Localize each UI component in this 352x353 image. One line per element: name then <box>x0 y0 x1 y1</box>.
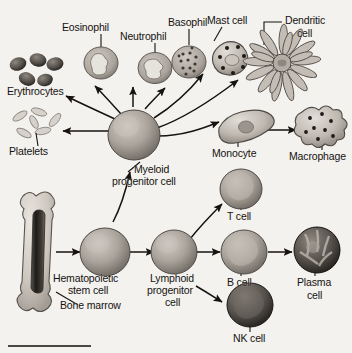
t-cell-illustration <box>220 169 262 209</box>
eosinophil-illustration <box>84 47 118 79</box>
monocyte-illustration <box>219 110 274 143</box>
lymphoid-progenitor-cell-illustration <box>151 230 197 274</box>
label-nk-cell: NK cell <box>233 333 265 345</box>
label-t-cell: T cell <box>227 211 251 223</box>
label-myeloid-line2: progenitor cell <box>112 176 176 188</box>
label-macrophage: Macrophage <box>289 151 346 163</box>
label-neutrophil: Neutrophil <box>120 31 166 43</box>
label-myeloid-line1: Myeloid <box>134 164 169 176</box>
platelets-illustration <box>11 106 62 139</box>
label-erythrocytes: Erythrocytes <box>7 86 64 98</box>
basophil-illustration <box>172 46 206 78</box>
label-mast-cell: Mast cell <box>207 15 247 27</box>
mast-cell-illustration <box>212 42 247 75</box>
label-bone-marrow: Bone marrow <box>60 300 121 312</box>
label-lymphoid-line1: Lymphoid <box>150 273 194 285</box>
plasma-cell-illustration <box>294 227 340 273</box>
label-lymphoid-line3: cell <box>165 297 180 309</box>
label-platelets: Platelets <box>9 146 48 158</box>
hematopoiesis-diagram: Erythrocytes Platelets Eosinophil Neutro… <box>0 0 352 353</box>
erythrocytes-illustration <box>8 52 64 88</box>
label-lymphoid-line2: progenitor <box>147 285 193 297</box>
label-basophil: Basophil <box>168 17 207 29</box>
label-monocyte: Monocyte <box>212 148 256 160</box>
nk-cell-illustration <box>227 283 273 327</box>
label-plasma-line1: Plasma <box>297 277 331 289</box>
bone-marrow-illustration <box>17 192 55 312</box>
label-dendritic-cell-line1: Dendritic <box>285 15 325 27</box>
arrow-lymphoid-to-nkcell <box>196 286 222 302</box>
label-eosinophil: Eosinophil <box>62 22 109 34</box>
hematopoietic-stem-cell-illustration <box>80 228 130 276</box>
label-plasma-line2: cell <box>307 290 322 302</box>
label-hematopoietic-line2: stem cell <box>68 285 108 297</box>
label-b-cell: B cell <box>227 277 252 289</box>
neutrophil-illustration <box>138 53 172 84</box>
footer-rule <box>8 345 91 347</box>
macrophage-illustration <box>294 106 347 148</box>
arrow-lymphoid-to-tcell <box>190 204 222 239</box>
label-hematopoietic-line1: Hematopoietic <box>53 273 118 285</box>
label-dendritic-cell-line2: cell <box>297 28 312 40</box>
myeloid-progenitor-cell-illustration <box>108 110 160 160</box>
b-cell-illustration <box>221 230 267 274</box>
